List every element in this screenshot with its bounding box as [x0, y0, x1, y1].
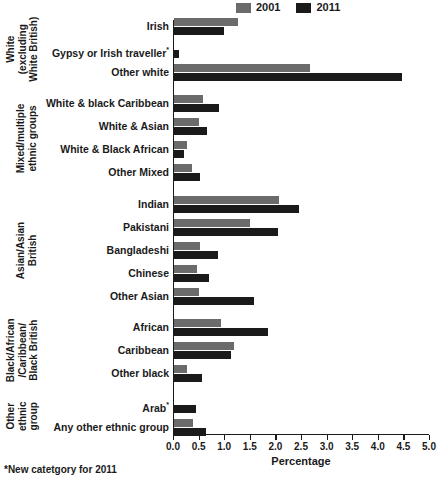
category-label: Other black: [111, 367, 169, 380]
category-label: Indian: [138, 198, 169, 211]
category-label: African: [133, 321, 169, 334]
bar-row: Gypsy or Irish traveller*: [0, 39, 443, 62]
x-tick-label-1.5: 1.5: [243, 441, 257, 452]
bar-2011: [174, 228, 278, 236]
category-label: Any other ethnic group: [54, 421, 170, 434]
category-label: Pakistani: [123, 221, 169, 234]
bar-row: Pakistani: [0, 217, 443, 240]
x-tick-label-3.0: 3.0: [320, 441, 334, 452]
bar-2001: [174, 365, 187, 373]
category-label: White & Black African: [60, 143, 169, 156]
bar-2001: [174, 196, 279, 204]
bar-row: White & black Caribbean: [0, 93, 443, 116]
bar-row: Other Asian: [0, 286, 443, 309]
x-tick-label-1.0: 1.0: [217, 441, 231, 452]
category-label: Other Asian: [110, 290, 169, 303]
legend-entry-2011: 2011: [296, 2, 340, 13]
bar-2001: [174, 164, 192, 172]
bar-2011: [174, 251, 218, 259]
group-label: Black/African/Caribbean/Black British: [5, 317, 40, 384]
x-tick-label-2.5: 2.5: [294, 441, 308, 452]
category-label: Chinese: [128, 267, 169, 280]
bar-row: African: [0, 317, 443, 340]
bar-row: Other black: [0, 363, 443, 386]
chart-page: 2001 2011 0.00.51.01.52.02.53.03.54.04.5…: [0, 0, 443, 485]
legend-label-2011: 2011: [316, 2, 340, 13]
category-label: Gypsy or Irish traveller*: [52, 43, 169, 60]
bar-2001: [174, 95, 203, 103]
group-label: Otherethnicgroup: [5, 394, 40, 438]
group-label: Mixed/multipleethnic groups: [15, 93, 38, 183]
x-tick-label-5.0: 5.0: [422, 441, 436, 452]
category-label: Other white: [111, 66, 169, 79]
bar-2001: [174, 219, 250, 227]
category-label: Irish: [147, 20, 169, 33]
bar-2001: [174, 18, 238, 26]
bar-2001: [174, 342, 234, 350]
bar-row: Chinese: [0, 263, 443, 286]
footnote: *New catetgory for 2011: [4, 464, 117, 475]
bar-row: Bangladeshi: [0, 240, 443, 263]
bar-2001: [174, 64, 310, 72]
x-tick-label-0.0: 0.0: [166, 441, 180, 452]
x-tick-label-0.5: 0.5: [192, 441, 206, 452]
category-label: White & black Caribbean: [46, 97, 169, 110]
bar-2011: [174, 127, 207, 135]
bar-row: Other white: [0, 62, 443, 85]
bar-2001: [174, 141, 187, 149]
legend-entry-2001: 2001: [236, 2, 280, 13]
bar-2011: [174, 150, 184, 158]
legend-swatch-2001: [236, 3, 251, 13]
bar-row: Other Mixed: [0, 162, 443, 185]
bar-2011: [174, 428, 206, 436]
bar-2001: [174, 319, 221, 327]
bar-row: Any other ethnic group: [0, 417, 443, 440]
x-tick-label-3.5: 3.5: [345, 441, 359, 452]
bar-2001: [174, 118, 199, 126]
bar-row: White & Black African: [0, 139, 443, 162]
bar-2011: [174, 50, 179, 58]
category-label: White & Asian: [99, 120, 169, 133]
bar-row: Indian: [0, 194, 443, 217]
bar-row: Caribbean: [0, 340, 443, 363]
bar-2011: [174, 274, 209, 282]
bar-2011: [174, 328, 268, 336]
x-tick-label-4.0: 4.0: [371, 441, 385, 452]
bar-2011: [174, 374, 202, 382]
bar-2011: [174, 351, 231, 359]
category-label: Bangladeshi: [107, 244, 169, 257]
bar-2011: [174, 173, 200, 181]
bar-2001: [174, 242, 200, 250]
bar-row: White & Asian: [0, 116, 443, 139]
bar-2011: [174, 297, 254, 305]
group-label: White(excludingWhite British): [5, 16, 40, 83]
x-tick-label-2.0: 2.0: [268, 441, 282, 452]
chart-legend: 2001 2011: [236, 2, 340, 13]
category-label: Caribbean: [118, 344, 169, 357]
bar-2011: [174, 73, 402, 81]
x-tick-label-4.5: 4.5: [396, 441, 410, 452]
bar-2011: [174, 405, 196, 413]
category-label: Other Mixed: [108, 166, 169, 179]
bar-2011: [174, 205, 299, 213]
bar-2001: [174, 419, 193, 427]
x-axis-label: Percentage: [173, 455, 429, 467]
bar-2001: [174, 265, 197, 273]
legend-label-2001: 2001: [256, 2, 280, 13]
bar-row: Irish: [0, 16, 443, 39]
legend-swatch-2011: [296, 3, 311, 13]
bar-2011: [174, 27, 224, 35]
bar-row: Arab*: [0, 394, 443, 417]
group-label: Asian/AsianBritish: [15, 194, 38, 307]
plot-area: 0.00.51.01.52.02.53.03.54.04.55.0 Percen…: [0, 18, 443, 438]
category-label: Arab*: [142, 398, 169, 415]
bar-2011: [174, 104, 219, 112]
bar-2001: [174, 288, 199, 296]
